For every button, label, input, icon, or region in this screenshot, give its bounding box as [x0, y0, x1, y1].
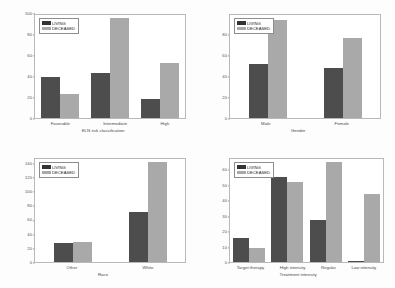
y-tick-label: 10	[222, 245, 227, 249]
bar-living	[41, 77, 60, 118]
bar-deceased	[148, 162, 167, 262]
y-tick-label: 20	[27, 247, 32, 251]
legend-swatch-deceased-icon	[237, 171, 246, 175]
bar-living	[324, 68, 343, 118]
x-tick-label: White	[142, 265, 153, 270]
legend-swatch-living-icon	[42, 165, 51, 169]
x-tick-label: Favorable	[51, 121, 70, 126]
legend-label-deceased: DECEASED	[247, 26, 270, 31]
legend-row-deceased: DECEASED	[237, 170, 270, 175]
legend-swatch-deceased-icon	[237, 27, 246, 31]
bar-living	[233, 238, 249, 262]
bar-group	[141, 15, 179, 118]
y-tick-label: 0	[225, 261, 227, 265]
bar-living	[271, 177, 287, 262]
x-tick-labels-1: FavorableIntermediateHigh	[34, 121, 186, 126]
x-tick-label: Low intensity	[351, 265, 376, 270]
y-axis-4: 0102030405060	[197, 158, 227, 263]
bar-deceased	[249, 248, 265, 262]
legend-1: LIVING DECEASED	[39, 18, 79, 34]
legend-label-deceased: DECEASED	[52, 26, 75, 31]
bar-deceased	[73, 242, 92, 262]
y-tick-label: 100	[25, 12, 32, 16]
y-tick-label: 50	[222, 184, 227, 188]
y-tick-label: 80	[222, 33, 227, 37]
y-tick-label: 60	[27, 54, 32, 58]
y-axis-2: 020406080	[197, 14, 227, 119]
x-tick-label: High intensity	[280, 265, 306, 270]
bar-living	[249, 64, 268, 118]
y-axis-1: 020406080100	[0, 14, 32, 119]
y-tick-label: 60	[222, 168, 227, 172]
bar-group	[310, 159, 342, 262]
y-tick-label: 20	[222, 230, 227, 234]
x-tick-label: Other	[67, 265, 78, 270]
x-tick-label: Female	[335, 121, 349, 126]
y-tick-label: 100	[25, 190, 32, 194]
bar-group	[129, 159, 167, 262]
legend-swatch-living-icon	[237, 165, 246, 169]
y-tick-label: 0	[225, 117, 227, 121]
x-axis-title-2: Gender	[203, 128, 393, 133]
legend-2: LIVING DECEASED	[234, 18, 274, 34]
x-tick-labels-3: OtherWhite	[34, 265, 186, 270]
legend-3: LIVING DECEASED	[39, 162, 79, 178]
chart-panel-race: 020406080100120140 LIVING DECEASED Other…	[0, 144, 197, 288]
legend-row-deceased: DECEASED	[42, 26, 75, 31]
bar-living	[91, 73, 110, 118]
x-axis-title-3: Race	[8, 272, 198, 277]
bar-deceased	[326, 162, 342, 262]
chart-panel-eln-risk: 020406080100 LIVING DECEASED FavorableIn…	[0, 0, 197, 144]
x-tick-label: High	[160, 121, 169, 126]
bar-deceased	[364, 194, 380, 262]
x-tick-label: Regular	[321, 265, 336, 270]
bar-living	[310, 220, 326, 262]
y-tick-label: 60	[222, 54, 227, 58]
bar-deceased	[343, 38, 362, 118]
legend-swatch-living-icon	[237, 21, 246, 25]
plot-area-4: LIVING DECEASED	[229, 158, 384, 263]
x-axis-title-4: Treatment intensity	[203, 272, 393, 277]
chart-grid: 020406080100 LIVING DECEASED FavorableIn…	[0, 0, 395, 288]
chart-panel-gender: 020406080 LIVING DECEASED MaleFemale Gen…	[197, 0, 395, 144]
bar-group	[91, 15, 129, 118]
y-tick-label: 120	[25, 176, 32, 180]
x-tick-labels-4: Target therapyHigh intensityRegularLow i…	[229, 265, 384, 270]
x-tick-label: Male	[261, 121, 270, 126]
bar-group	[348, 159, 380, 262]
y-tick-label: 80	[27, 33, 32, 37]
bar-deceased	[287, 182, 303, 262]
y-tick-label: 20	[222, 96, 227, 100]
bar-group	[324, 15, 362, 118]
bar-deceased	[110, 18, 129, 118]
y-tick-label: 40	[222, 75, 227, 79]
bar-deceased	[160, 63, 179, 118]
plot-area-2: LIVING DECEASED	[229, 14, 381, 119]
bar-living	[348, 261, 364, 263]
y-tick-label: 0	[30, 261, 32, 265]
y-tick-label: 60	[27, 218, 32, 222]
y-tick-label: 30	[222, 215, 227, 219]
bar-living	[54, 243, 73, 262]
y-tick-label: 40	[27, 75, 32, 79]
y-tick-label: 140	[25, 162, 32, 166]
y-tick-label: 80	[27, 204, 32, 208]
legend-swatch-deceased-icon	[42, 171, 51, 175]
bar-deceased	[60, 94, 79, 118]
y-tick-label: 20	[27, 96, 32, 100]
legend-label-deceased: DECEASED	[52, 170, 75, 175]
legend-row-deceased: DECEASED	[237, 26, 270, 31]
bar-deceased	[268, 20, 287, 118]
x-axis-title-1: ELN risk classification	[8, 128, 198, 133]
chart-panel-treatment-intensity: 0102030405060 LIVING DECEASED Target the…	[197, 144, 395, 288]
legend-swatch-living-icon	[42, 21, 51, 25]
legend-label-deceased: DECEASED	[247, 170, 270, 175]
x-tick-label: Intermediate	[103, 121, 127, 126]
bar-living	[141, 99, 160, 118]
y-tick-label: 40	[27, 233, 32, 237]
y-tick-label: 0	[30, 117, 32, 121]
bar-living	[129, 212, 148, 262]
legend-4: LIVING DECEASED	[234, 162, 274, 178]
y-tick-label: 40	[222, 199, 227, 203]
plot-area-3: LIVING DECEASED	[34, 158, 186, 263]
